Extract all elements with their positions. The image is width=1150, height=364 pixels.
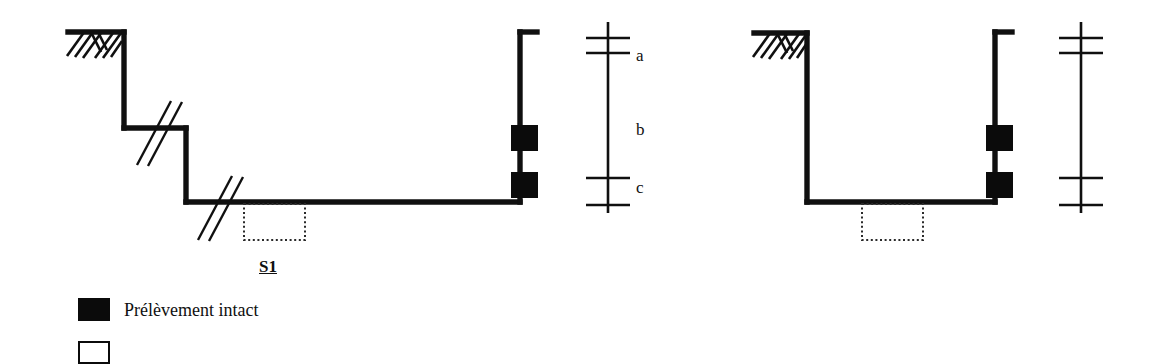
legend-swatch-intact-sample — [78, 298, 110, 321]
sample-block-left-upper — [511, 125, 538, 151]
depth-scale-right-group — [1059, 22, 1103, 213]
depth-scale-left-group — [586, 22, 630, 213]
left-profile-outline — [68, 32, 537, 202]
scale-label-c: c — [636, 179, 644, 196]
legend-label-intact-sample: Prélèvement intact — [124, 301, 258, 319]
sample-block-right-upper — [986, 125, 1013, 151]
sample-block-left-lower — [511, 172, 538, 198]
left-excavation-group — [67, 31, 538, 241]
right-profile-outline — [754, 32, 1012, 202]
ground-surface-hatching-right — [753, 32, 807, 59]
scale-label-a: a — [636, 47, 644, 64]
section-tag-s1: S1 — [259, 258, 277, 275]
legend-swatch-remolded-sample — [78, 341, 110, 364]
dotted-sample-box-right — [862, 204, 923, 240]
sample-block-right-lower — [986, 172, 1013, 198]
right-excavation-group — [753, 32, 1013, 240]
break-symbol-left-2 — [198, 176, 243, 241]
scale-label-b: b — [636, 121, 645, 138]
dotted-sample-box-left — [244, 204, 305, 240]
ground-surface-hatching-left — [67, 31, 122, 58]
break-symbol-left-1 — [137, 101, 182, 166]
